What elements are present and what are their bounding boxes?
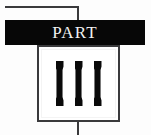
- top-horizontal-rule: [5, 6, 79, 8]
- top-vertical-connector: [77, 6, 79, 21]
- numeral-stroke-1: [56, 61, 64, 106]
- numeral-stroke-3: [94, 61, 102, 106]
- part-title-bar: PART: [5, 20, 145, 45]
- bottom-vertical-connector: [77, 120, 79, 135]
- part-divider-graphic: PART: [0, 0, 151, 135]
- part-label: PART: [52, 24, 98, 41]
- roman-numeral-box: [37, 45, 120, 122]
- numeral-stroke-2: [75, 61, 83, 106]
